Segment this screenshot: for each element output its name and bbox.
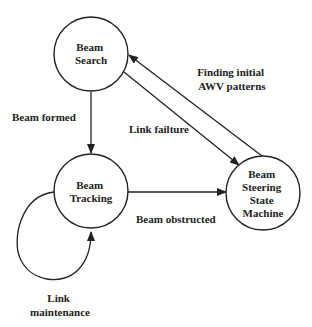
edge-label-beam-obstructed: Beam obstructed: [136, 213, 216, 225]
node-beam-steering-state-machine: Beam Steering State Machine: [226, 156, 300, 230]
node-label: Beam Search: [75, 41, 107, 66]
edge-label-finding-initial-awv: Finding initial AWV patterns: [197, 66, 267, 92]
state-machine-diagram: Beam Search Beam Tracking Beam Steering …: [0, 0, 312, 327]
edge-label-beam-formed: Beam formed: [12, 111, 76, 123]
node-beam-tracking: Beam Tracking: [54, 154, 128, 228]
edge-label-link-failture: Link failture: [129, 123, 189, 135]
edge-label-link-maintenance: Link maintenance: [30, 292, 90, 318]
node-beam-search: Beam Search: [54, 17, 128, 91]
state-circle: [54, 154, 128, 228]
